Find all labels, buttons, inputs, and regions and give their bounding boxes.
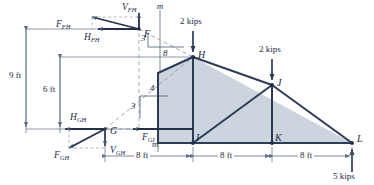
- force-sub-F-FH: FH: [62, 23, 71, 30]
- joint-label-I: I: [196, 133, 199, 143]
- force-base-F-GI: F: [142, 132, 148, 142]
- dimension-label-8ft-first: 8 ft: [134, 151, 150, 160]
- force-base-F-GH: F: [54, 150, 60, 160]
- force-label-F-FH: FFH: [56, 20, 70, 30]
- force-vectors-at-G: [65, 129, 105, 148]
- force-label-H-FH: HFH: [84, 33, 100, 43]
- joint-label-G: G: [110, 126, 117, 136]
- force-label-V-GH: VGH: [110, 146, 125, 156]
- joint-label-J: J: [277, 78, 281, 88]
- force-base-H-FH: H: [84, 32, 91, 42]
- joint-label-K: K: [275, 133, 282, 143]
- force-label-V-FH: VFH: [122, 3, 136, 13]
- figure-canvas: F G H I J K L VFH FFH HFH HGH FGH VGH FG…: [0, 0, 374, 185]
- slope-triangle-upper: [148, 33, 184, 47]
- dimension-label-8ft-second: 8 ft: [218, 151, 234, 160]
- slope-label-lower-run: 4: [150, 84, 155, 93]
- force-label-H-GH: HGH: [70, 113, 86, 123]
- force-base-F-FH: F: [56, 19, 62, 29]
- section-mark-m-bottom: m: [152, 140, 158, 149]
- force-sub-V-GH: GH: [116, 149, 125, 156]
- force-sub-F-GH: GH: [60, 154, 69, 161]
- force-label-F-GH: FGH: [54, 151, 69, 161]
- load-label-2-kips-J: 2 kips: [259, 45, 281, 54]
- section-mark-m-top: m: [157, 2, 163, 11]
- load-label-5-kips-L: 5 kips: [333, 172, 355, 181]
- joint-label-L: L: [357, 134, 363, 144]
- dimension-label-6ft: 6 ft: [43, 85, 55, 94]
- slope-label-upper-rise: 3: [141, 34, 146, 43]
- force-vectors-at-F: [92, 13, 139, 29]
- force-base-V-GH: V: [110, 145, 116, 155]
- force-sub-H-GH: GH: [77, 116, 86, 123]
- truss-shaded-body: [158, 57, 352, 143]
- force-sub-V-FH: FH: [128, 6, 137, 13]
- force-sub-H-FH: FH: [91, 36, 100, 43]
- force-base-V-FH: V: [122, 2, 128, 12]
- force-base-H-GH: H: [70, 112, 77, 122]
- slope-label-upper-run: 8: [163, 49, 168, 58]
- slope-label-lower-rise: 3: [131, 102, 136, 111]
- dimension-label-8ft-third: 8 ft: [298, 151, 314, 160]
- joint-label-H: H: [198, 50, 205, 60]
- load-label-2-kips-H: 2 kips: [180, 17, 202, 26]
- dimension-label-9ft: 9 ft: [9, 71, 21, 80]
